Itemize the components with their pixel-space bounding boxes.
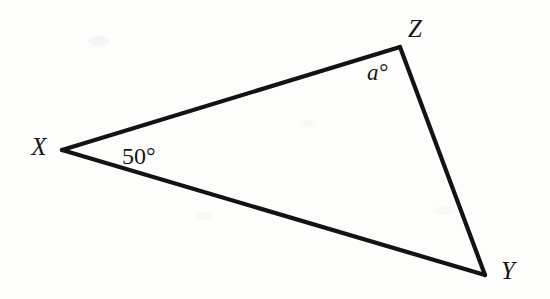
edge-ZY xyxy=(400,47,485,275)
vertex-label-Z: Z xyxy=(408,15,423,42)
vertex-label-X: X xyxy=(30,133,48,160)
vertex-label-Y: Y xyxy=(501,257,518,284)
edge-XZ xyxy=(62,47,400,150)
triangle-diagram: X Z Y 50° a° xyxy=(0,0,550,299)
angle-label-a-degrees: a° xyxy=(367,60,388,85)
angle-label-50-degrees: 50° xyxy=(122,143,156,169)
